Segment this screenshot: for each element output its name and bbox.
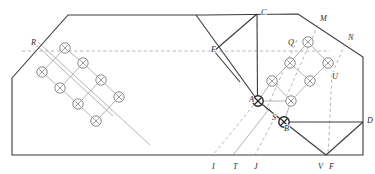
lattice-node-right-0 [303,37,313,47]
solid-line-C-to-E [214,14,257,51]
lattice-node-left-4 [96,75,106,85]
lattice-node-left-0 [60,43,70,53]
geometric-figure-canvas: RCEMNQUASBDITJVF [0,0,375,174]
lattice-node-left-7 [91,116,101,126]
point-label-N: N [347,33,354,42]
point-label-U: U [332,72,339,81]
lattice-node-right-4 [305,76,315,86]
lattice-connector-lines [42,42,328,122]
solid-line-E-down-right [214,51,240,82]
point-label-F: F [328,162,335,171]
point-label-I: I [211,162,216,171]
lattice-node-left-3 [55,83,65,93]
solid-line-V-to-D [326,122,363,155]
thin-guide-lines [35,42,270,155]
point-label-M: M [319,14,328,23]
thin-line-left-lattice-axis-1 [38,42,150,145]
point-label-A: A [248,95,255,104]
figure-svg: RCEMNQUASBDITJVF [0,0,375,174]
thin-line-T-slant [233,108,270,155]
point-label-T: T [233,162,239,171]
solid-line-B-to-V [284,122,326,155]
dashed-line-S-to-J [255,117,275,155]
solid-line-top-diag-long [196,15,258,101]
dashed-line-U-to-F [328,74,332,155]
dashed-line-A-to-I [213,101,257,155]
left-lattice-nodes [37,43,124,126]
point-label-E: E [210,45,216,54]
lattice-node-right-6 [253,96,263,106]
lattice-node-right-1 [285,58,295,68]
lattice-node-right-5 [286,96,296,106]
point-label-C: C [261,8,267,17]
lattice-node-right-2 [323,58,333,68]
lattice-node-left-6 [114,92,124,102]
dashed-construction-lines [22,25,345,155]
solid-construction-lines [196,14,363,155]
dashed-line-N-diag-down [333,44,345,72]
right-lattice-nodes [253,37,333,127]
point-labels: RCEMNQUASBDITJVF [30,8,373,171]
lattice-node-left-1 [37,67,47,77]
lattice-node-right-3 [267,76,277,86]
point-label-D: D [366,116,373,125]
lattice-node-left-2 [78,58,88,68]
point-label-S: S [272,113,276,122]
point-label-Q: Q [288,38,294,47]
lattice-node-left-5 [73,99,83,109]
point-label-B: B [284,124,289,133]
solid-line-C-to-A-vertical [257,14,258,101]
point-label-V: V [318,162,324,171]
point-label-R: R [30,38,36,47]
point-label-J: J [254,162,258,171]
